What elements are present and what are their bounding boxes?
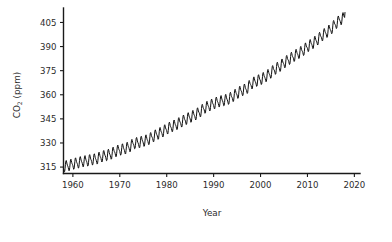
- x-tick-label: 2000: [250, 180, 272, 190]
- x-tick-label: 1960: [62, 180, 84, 190]
- y-tick-labels: 315330345360375390405: [40, 18, 56, 173]
- y-tick-label: 375: [40, 66, 56, 76]
- y-tick-label: 360: [40, 90, 56, 100]
- y-tick-label: 330: [40, 138, 56, 148]
- chart-canvas: 315330345360375390405 196019701980199020…: [0, 0, 392, 242]
- y-tick-label: 390: [40, 42, 56, 52]
- y-axis-title: CO2 (ppm): [12, 72, 23, 118]
- y-axis-title-base: CO: [12, 105, 22, 118]
- y-tick-label: 315: [40, 162, 56, 172]
- x-tick-label: 2010: [297, 180, 319, 190]
- y-tick-label: 345: [40, 114, 56, 124]
- x-tick-labels: 1960197019801990200020102020: [62, 180, 365, 190]
- y-axis-title-units: (ppm): [12, 72, 22, 101]
- y-axis-group: 315330345360375390405: [40, 8, 63, 174]
- x-tick-label: 1980: [156, 180, 178, 190]
- svg-text:CO2 (ppm): CO2 (ppm): [12, 72, 23, 118]
- x-tick-label: 1970: [109, 180, 131, 190]
- x-tick-label: 2020: [343, 180, 365, 190]
- co2-data-line: [64, 13, 345, 172]
- x-tick-label: 1990: [203, 180, 225, 190]
- y-tick-label: 405: [40, 18, 56, 28]
- x-axis-title: Year: [202, 208, 222, 218]
- x-axis-group: 1960197019801990200020102020: [62, 174, 365, 190]
- co2-chart-figure: 315330345360375390405 196019701980199020…: [0, 0, 392, 242]
